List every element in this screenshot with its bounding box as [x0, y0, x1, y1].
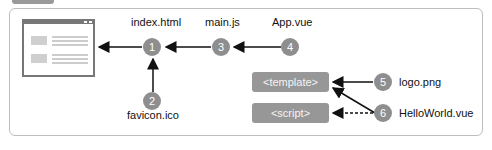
step-6-badge: 6	[374, 104, 392, 122]
node-label-index-html: index.html	[131, 16, 181, 28]
step-3-badge: 3	[212, 38, 230, 56]
template-block: <template>	[252, 72, 329, 92]
step-5-badge: 5	[374, 73, 392, 91]
step-4-badge: 4	[281, 38, 299, 56]
node-label-favicon-ico: favicon.ico	[127, 109, 179, 121]
diagram-lines	[0, 0, 492, 150]
step-2-badge: 2	[143, 92, 161, 110]
node-label-app-vue: App.vue	[272, 16, 312, 28]
script-block: <script>	[252, 103, 329, 123]
node-label-logo-png: logo.png	[399, 76, 441, 88]
node-label-main-js: main.js	[205, 16, 240, 28]
step-1-badge: 1	[143, 38, 161, 56]
browser-window-icon	[23, 20, 94, 76]
node-label-helloworld-vue: HelloWorld.vue	[399, 107, 473, 119]
